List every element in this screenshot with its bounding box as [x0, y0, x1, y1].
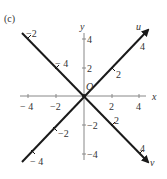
x-tick-label: 2: [109, 101, 114, 112]
v-tick-label: − 4: [55, 58, 68, 69]
v-tick-label: −2: [26, 28, 37, 39]
u-axis-label: u: [136, 21, 141, 32]
v-tick-label: 4: [140, 143, 145, 154]
y-axis-label: y: [79, 21, 85, 32]
v-tick-label: 2: [114, 115, 119, 126]
y-tick-label: −4: [87, 149, 98, 160]
origin-point: [82, 94, 86, 98]
y-tick-label: 2: [87, 63, 92, 74]
u-tick-label: 4: [140, 41, 145, 52]
v-axis-label: v: [150, 157, 155, 168]
coordinate-diagram: (c) x y O − 4 −2 2 4 4 2 −2 −4 u v −2 2 …: [0, 0, 167, 179]
y-tick-label: −2: [87, 120, 98, 131]
u-tick-label: 2: [116, 69, 121, 80]
x-axis-label: x: [151, 91, 157, 102]
origin-label: O: [86, 81, 93, 92]
y-tick-label: 4: [87, 34, 92, 45]
panel-label: (c): [4, 13, 15, 25]
u-tick-label: − 4: [30, 156, 43, 167]
x-tick-label: 4: [136, 101, 141, 112]
x-tick-label: −2: [50, 101, 61, 112]
u-tick-label: −2: [58, 128, 69, 139]
x-tick-label: − 4: [20, 101, 33, 112]
